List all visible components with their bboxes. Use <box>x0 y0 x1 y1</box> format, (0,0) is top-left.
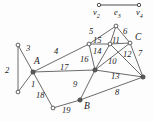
node-lowermid <box>51 106 55 110</box>
node-apex <box>114 24 118 28</box>
vertex-v2-node <box>97 3 100 6</box>
edge-label-9: 9 <box>73 80 77 89</box>
edge-label-12: 12 <box>123 50 132 59</box>
edge-label-2: 2 <box>5 66 9 75</box>
edge-label-10: 10 <box>108 57 117 66</box>
vertex-label-a: A <box>34 57 40 67</box>
edge-label-3: 3 <box>26 44 30 53</box>
edge-label-11: 11 <box>112 36 120 45</box>
edge-label-18: 18 <box>36 91 45 100</box>
node-hub <box>93 68 97 72</box>
node-mid-left <box>87 42 91 46</box>
node-a <box>31 70 35 74</box>
node-b <box>78 98 82 102</box>
node-c <box>128 41 132 45</box>
edge-label-6: 6 <box>123 27 127 36</box>
node-right <box>141 75 145 79</box>
edge-label-1: 1 <box>31 80 35 89</box>
vertex-label-c: C <box>135 33 141 43</box>
graph-canvas <box>0 0 153 122</box>
edge-label-17: 17 <box>60 63 69 72</box>
edge-label-7: 7 <box>138 49 142 58</box>
vertex-label-b: B <box>84 102 90 112</box>
vertex-label-v2: v2 <box>93 8 100 19</box>
edge-label-14: 14 <box>93 47 102 56</box>
edge-label-e3: e3 <box>114 8 121 19</box>
edge-label-4: 4 <box>54 47 58 56</box>
graph-figure: v2 e3 v4 A B C 1 2 3 4 5 6 7 8 9 10 11 1… <box>0 0 153 122</box>
node-bottomleft <box>16 90 20 94</box>
edge-label-15: 15 <box>93 36 102 45</box>
vertex-label-v4: v4 <box>136 8 143 19</box>
edge-label-19: 19 <box>62 106 71 115</box>
edge-label-8: 8 <box>115 88 119 97</box>
node-topleft <box>16 43 20 47</box>
edge-label-16: 16 <box>80 55 89 64</box>
edge-label-13: 13 <box>111 72 120 81</box>
